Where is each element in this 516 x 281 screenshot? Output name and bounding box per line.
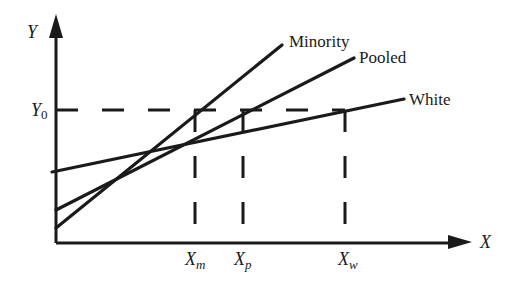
white-label: White: [409, 90, 451, 109]
xm-label: Xm: [184, 249, 205, 272]
y-axis-arrow-icon: [49, 14, 63, 38]
x-axis-arrow-icon: [448, 235, 472, 249]
pooled-line: [56, 58, 354, 210]
xm-label-sub: m: [196, 257, 205, 272]
minority-label: Minority: [289, 32, 350, 51]
xw-label-sub: w: [349, 257, 358, 272]
xw-label: Xw: [337, 249, 358, 272]
xp-label-sub: p: [244, 257, 252, 272]
minority-line: [56, 45, 282, 228]
x-axis-label: X: [479, 232, 492, 252]
y-axis-label: Y: [27, 22, 39, 42]
y0-label-sub: 0: [41, 107, 48, 122]
y0-label: Y0: [31, 100, 48, 122]
regression-lines: [52, 45, 404, 228]
regression-lines-diagram: Minority Pooled White Y X Y0 Xm Xp Xw: [0, 0, 516, 281]
xp-label: Xp: [233, 249, 252, 272]
pooled-label: Pooled: [359, 48, 407, 67]
